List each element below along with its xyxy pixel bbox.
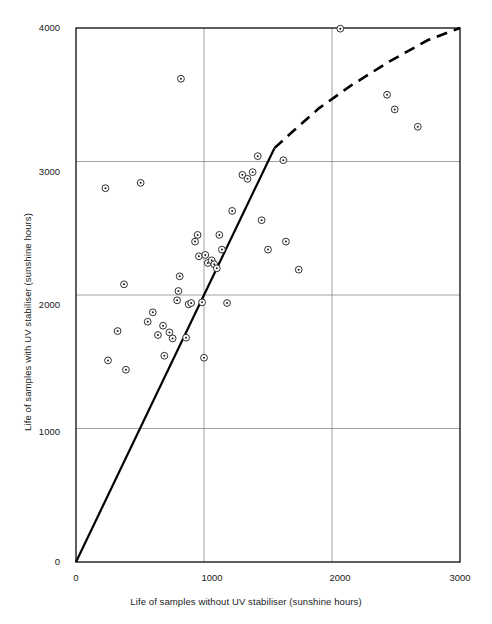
gridlines-group (76, 28, 460, 562)
data-point-center (247, 178, 249, 180)
data-point (123, 366, 130, 373)
data-point-center (252, 171, 254, 173)
data-point-center (157, 334, 159, 336)
data-point-center (394, 108, 396, 110)
data-point (249, 169, 256, 176)
data-point-center (147, 321, 149, 323)
data-point-center (231, 210, 233, 212)
data-point (201, 354, 208, 361)
data-point (265, 246, 272, 253)
data-point-center (123, 283, 125, 285)
data-point-center (176, 299, 178, 301)
data-point-center (226, 302, 228, 304)
x-axis-title: Life of samples without UV stabiliser (s… (0, 596, 492, 607)
data-point (202, 252, 209, 259)
data-point (176, 273, 183, 280)
data-point (295, 266, 302, 273)
data-point (244, 175, 251, 182)
plot-canvas (0, 0, 492, 624)
data-point-center (201, 301, 203, 303)
data-point-center (386, 94, 388, 96)
data-point (224, 300, 231, 307)
data-point (384, 91, 391, 98)
data-point (137, 179, 144, 186)
data-point-center (152, 311, 154, 313)
regression-solid-segment (76, 148, 274, 562)
data-point (121, 281, 128, 288)
data-point-center (117, 330, 119, 332)
data-point-center (261, 219, 263, 221)
data-point-center (162, 325, 164, 327)
data-point-center (203, 357, 205, 359)
data-points-group (102, 25, 421, 373)
data-point (194, 232, 201, 239)
data-point (144, 318, 151, 325)
data-point (105, 357, 112, 364)
data-point (155, 332, 162, 339)
data-point-center (177, 290, 179, 292)
data-point (192, 238, 199, 245)
data-point-center (125, 369, 127, 371)
data-point (280, 157, 287, 164)
data-point (199, 299, 206, 306)
data-point (229, 207, 236, 214)
data-point (160, 322, 167, 329)
data-point (174, 297, 181, 304)
data-point (175, 288, 182, 295)
data-point-center (216, 267, 218, 269)
data-point (183, 334, 190, 341)
scatter-chart-figure: 4000 3000 2000 1000 0 0 1000 2000 3000 L… (0, 0, 492, 624)
x-tick-label-3000: 3000 (430, 572, 490, 583)
data-point-center (285, 241, 287, 243)
y-axis-title-wrapper: Life of samples with UV stabiliser (suns… (22, 142, 42, 502)
data-point-center (163, 355, 165, 357)
data-point (254, 153, 261, 160)
data-point-center (198, 255, 200, 257)
data-point (258, 217, 265, 224)
data-point-center (194, 241, 196, 243)
data-point-center (179, 275, 181, 277)
data-point (195, 253, 202, 260)
data-point-center (172, 337, 174, 339)
data-point (391, 106, 398, 113)
data-point-center (140, 182, 142, 184)
data-point-center (221, 249, 223, 251)
data-point (188, 300, 195, 307)
data-point (149, 309, 156, 316)
y-tick-label-0: 0 (8, 556, 60, 567)
data-point-center (267, 249, 269, 251)
data-point-center (190, 302, 192, 304)
y-tick-label-4000: 4000 (8, 22, 60, 33)
data-point (219, 246, 226, 253)
data-point (414, 123, 421, 130)
data-point (283, 238, 290, 245)
data-point (216, 232, 223, 239)
data-point (169, 335, 176, 342)
data-point-center (241, 174, 243, 176)
x-tick-label-2000: 2000 (310, 572, 370, 583)
data-point-center (218, 234, 220, 236)
data-point-center (185, 337, 187, 339)
x-tick-label-0: 0 (56, 572, 96, 583)
data-point (337, 25, 344, 32)
data-point (213, 265, 220, 272)
data-point-center (339, 28, 341, 30)
data-point-center (168, 331, 170, 333)
data-point-center (257, 155, 259, 157)
regression-dashed-extension (274, 28, 460, 148)
y-axis-title: Life of samples with UV stabiliser (suns… (22, 142, 33, 502)
data-point-center (104, 187, 106, 189)
data-point (102, 185, 109, 192)
data-point-center (417, 126, 419, 128)
data-point-center (282, 159, 284, 161)
data-point-center (298, 269, 300, 271)
data-point-center (107, 359, 109, 361)
data-point (178, 75, 185, 82)
data-point (161, 352, 168, 359)
data-point-center (180, 78, 182, 80)
x-tick-label-1000: 1000 (182, 572, 242, 583)
data-point-center (197, 234, 199, 236)
data-point (114, 328, 121, 335)
data-point-center (204, 254, 206, 256)
